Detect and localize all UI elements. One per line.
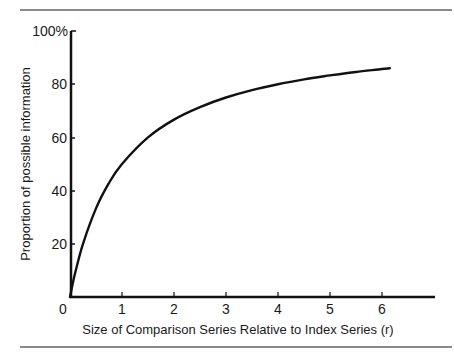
x-tick-label: 2: [170, 301, 178, 317]
x-axis: 0 1 2 3 4 5 6 Size of Comparison Series …: [59, 292, 435, 337]
chart: 100% 80 60 40 20 Proportion of possible …: [0, 0, 454, 353]
x-tick-label: 1: [118, 301, 126, 317]
x-axis-label: Size of Comparison Series Relative to In…: [82, 322, 393, 337]
y-axis-label: Proportion of possible information: [18, 67, 33, 261]
y-tick-label: 80: [51, 76, 67, 92]
y-tick-label: 60: [51, 130, 67, 146]
data-curve: [70, 68, 390, 297]
x-tick-label: 5: [326, 301, 334, 317]
y-tick-label: 40: [51, 183, 67, 199]
bottom-rule: [20, 346, 452, 348]
y-tick-label: 20: [51, 236, 67, 252]
x-tick-label: 6: [378, 301, 386, 317]
x-tick-label: 4: [274, 301, 282, 317]
x-tick-label: 3: [222, 301, 230, 317]
x-tick-label: 0: [59, 301, 67, 317]
y-tick-label: 100%: [32, 23, 68, 39]
y-axis: 100% 80 60 40 20 Proportion of possible …: [18, 23, 76, 298]
